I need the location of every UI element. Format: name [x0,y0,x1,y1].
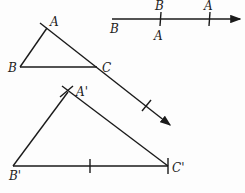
geometry-diagram: B B A A A B C A' B' C' [0,0,245,193]
vertex-b-label: B [7,61,17,75]
vertex-a-prime-label: A' [75,85,88,99]
ray-tick1-below-label: A [153,29,163,43]
vertex-c-prime-label: C' [172,161,184,175]
measurement-ray: B B A A [109,0,240,43]
a-prime-arc-mark [60,86,73,97]
vertex-b-prime-label: B' [8,169,21,183]
ray-tick-1 [160,12,161,26]
ray-tick2-above-label: A [203,0,213,13]
ray-start-label: B [109,22,119,36]
ray-tick1-above-label: B [154,0,164,13]
ray-tick-2 [209,12,210,26]
triangle-abc: A B C [7,15,170,125]
vertex-c-label: C [102,61,111,75]
triangle-a-prime-b-prime-c-prime: A' B' C' [8,85,184,183]
vertex-a-label: A [49,15,59,29]
